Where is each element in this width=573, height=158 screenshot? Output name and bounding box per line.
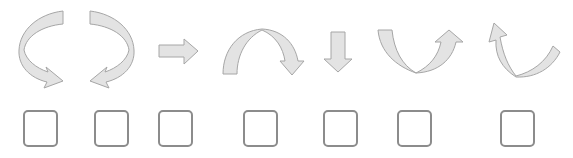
answer-box-7[interactable]	[500, 110, 535, 147]
answer-box-2[interactable]	[94, 110, 129, 147]
u-arrow-down-then-up-right-icon	[378, 30, 463, 73]
curved-arrow-clockwise-down-left-icon	[90, 11, 134, 88]
answer-box-1[interactable]	[23, 110, 58, 147]
answer-box-5[interactable]	[323, 110, 358, 147]
arch-arrow-over-down-right-icon	[223, 29, 304, 75]
curved-arrow-counterclockwise-down-right-icon	[19, 11, 63, 88]
straight-arrow-down-icon	[324, 32, 352, 72]
straight-arrow-right-icon	[159, 39, 198, 64]
answer-box-4[interactable]	[243, 110, 278, 147]
answer-box-6[interactable]	[397, 110, 432, 147]
u-arrow-curve-up-left-icon	[489, 23, 560, 77]
answer-box-3[interactable]	[158, 110, 193, 147]
arrows-row	[0, 0, 573, 100]
